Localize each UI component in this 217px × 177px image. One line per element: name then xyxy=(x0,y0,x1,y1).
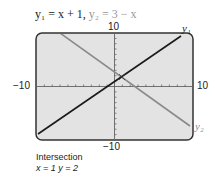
ymax-label: 10 xyxy=(108,21,119,32)
xmax-label: 10 xyxy=(197,80,208,91)
y1-line-label: y₁ xyxy=(182,22,191,34)
caption-values: x = 1 y = 2 xyxy=(36,163,83,174)
caption-title: Intersection xyxy=(36,152,83,163)
y2-line-label: y₂ xyxy=(195,120,204,132)
xmin-label: −10 xyxy=(13,80,30,91)
intersection-caption: Intersection x = 1 y = 2 xyxy=(36,152,83,174)
ymin-label: −10 xyxy=(103,141,120,152)
